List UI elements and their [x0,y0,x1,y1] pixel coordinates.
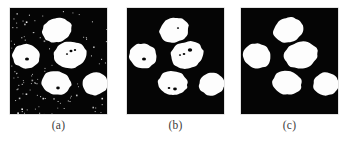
panel-c [241,8,338,114]
blob-hole-1 [70,50,73,52]
panel-b-canvas [127,8,224,114]
blob-hole-1 [25,57,29,60]
panel-b-caption: (b) [127,118,224,132]
blob-hole-1 [188,48,192,51]
blob-hole-1 [56,87,60,90]
blob-hole-2 [168,87,171,89]
panel-a-canvas [10,8,107,114]
figure-root: (a)(b)(c) [0,0,356,141]
panel-a [10,8,107,114]
blob-hole-3 [179,54,181,56]
panel-c-caption: (c) [241,118,338,132]
blob-hole-2 [183,53,186,55]
blob-hole-2 [74,49,76,51]
blob-hole-1 [142,57,146,60]
panel-a-caption: (a) [10,118,107,132]
blob-hole-1 [177,27,179,29]
blob-hole-3 [66,53,68,55]
panel-c-canvas [241,8,338,114]
panel-b [127,8,224,114]
blob-hole-1 [173,88,177,91]
